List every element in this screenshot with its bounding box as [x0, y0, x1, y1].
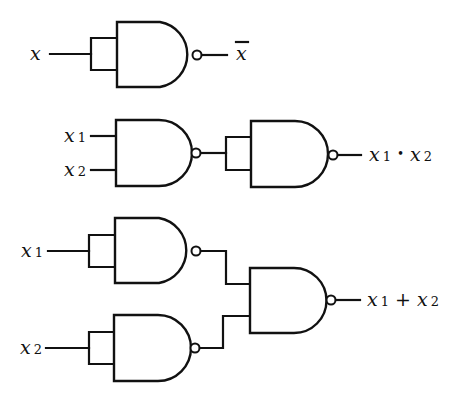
or-circuit: x1 x2 x1+x2	[20, 218, 439, 381]
nand-gate-3	[251, 121, 328, 187]
not-output-label: x	[236, 42, 247, 64]
and-input-1-label: x1	[64, 124, 86, 146]
and-output-label: x1•x2	[369, 143, 432, 165]
nand-gate-6-bubble	[327, 296, 336, 305]
nand-gate-5-bubble	[191, 344, 200, 353]
nand-gate-2-bubble	[192, 149, 201, 158]
not-input-label: x	[30, 42, 41, 64]
nand-logic-diagram: x x x1 x2 x1•x2 x1 x2	[0, 0, 461, 402]
and-tie-bracket	[226, 137, 251, 170]
nand-gate-5	[114, 315, 191, 381]
or-input-1-tie-bracket	[89, 235, 115, 267]
not-circuit: x x	[30, 22, 248, 87]
or-output-label: x1+x2	[367, 288, 439, 310]
nand-gate-3-bubble	[329, 151, 338, 160]
nand-gate-2	[116, 120, 192, 186]
or-input-2-tie-bracket	[89, 332, 114, 364]
or-lower-wire	[200, 316, 250, 348]
or-upper-wire	[201, 251, 250, 284]
or-input-1-label: x1	[21, 239, 43, 261]
nand-gate-1	[117, 22, 187, 87]
and-circuit: x1 x2 x1•x2	[64, 120, 432, 187]
nand-gate-4-bubble	[192, 247, 201, 256]
nand-gate-4	[115, 218, 186, 283]
diagram-svg: x x x1 x2 x1•x2 x1 x2	[0, 0, 461, 402]
or-input-2-label: x2	[20, 336, 42, 358]
nand-gate-1-bubble	[193, 51, 202, 60]
nand-gate-6	[250, 268, 327, 333]
and-input-2-label: x2	[64, 158, 86, 180]
not-input-tie-bracket	[91, 38, 117, 70]
